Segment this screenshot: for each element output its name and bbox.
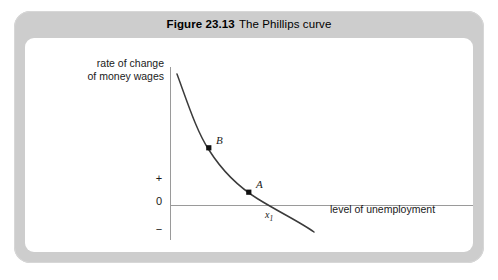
y-axis-title-line2: of money wages [88,70,164,82]
data-point-a-marker [246,190,251,195]
phillips-curve-chart: B A + 0 − rate of change of money wages … [25,38,473,252]
y-tick-label-plus: + [156,172,162,184]
phillips-curve-path [177,74,314,232]
figure-caption-number: Figure 23.13 [167,18,235,30]
plot-panel: B A + 0 − rate of change of money wages … [25,38,473,252]
figure-caption-text: The Phillips curve [239,18,332,30]
data-point-a-label: A [255,178,263,190]
data-point-b-marker [206,145,211,150]
data-point-b-label: B [216,134,223,146]
figure-screenshot: Figure 23.13The Phillips curve B A + 0 −… [0,0,498,280]
y-tick-label-minus: − [156,223,162,235]
y-tick-label-zero: 0 [156,195,162,207]
x-axis-title: level of unemployment [330,203,435,215]
figure-caption: Figure 23.13The Phillips curve [14,11,484,38]
y-axis-title-line1: rate of change [97,57,164,69]
x-axis-crossing-label: x1 [264,209,273,223]
